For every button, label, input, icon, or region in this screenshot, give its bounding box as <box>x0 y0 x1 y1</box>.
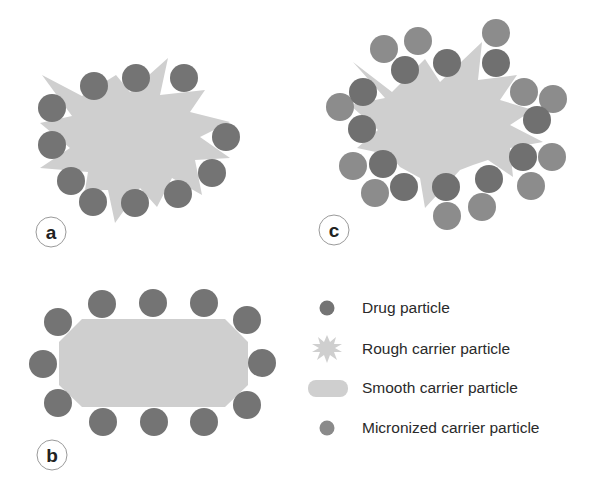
panel-b: b <box>29 289 276 470</box>
legend-label-drug: Drug particle <box>362 299 450 317</box>
legend-label-smooth-carrier: Smooth carrier particle <box>362 379 518 397</box>
panel-label-c: c <box>319 215 349 245</box>
rough-carrier-icon <box>312 335 342 363</box>
panel-a: a <box>36 58 240 247</box>
smooth-carrier-icon <box>308 380 348 397</box>
micronized-carrier-icon <box>320 421 335 436</box>
panel-c: c <box>319 19 567 245</box>
panel-label-a: a <box>36 217 66 247</box>
panel-label-a-text: a <box>46 222 57 243</box>
panel-label-b: b <box>37 440 67 470</box>
smooth-carrier-particle <box>59 319 248 407</box>
legend <box>308 301 348 436</box>
legend-label-rough-carrier: Rough carrier particle <box>362 340 510 358</box>
panel-label-b-text: b <box>46 445 58 466</box>
legend-label-micronized-carrier: Micronized carrier particle <box>362 419 539 437</box>
particle-diagram: a <box>0 0 593 480</box>
panel-label-c-text: c <box>329 220 340 241</box>
drug-particle-icon <box>320 301 335 316</box>
